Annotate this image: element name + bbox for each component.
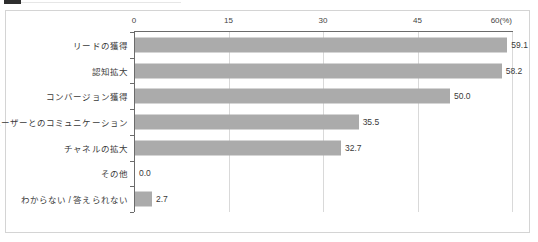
bar xyxy=(135,37,507,52)
y-axis-tick xyxy=(130,58,134,59)
bar-value-label: 50.0 xyxy=(454,91,471,101)
category-label: 認知拡大 xyxy=(92,65,128,77)
section-bullet-marker-icon xyxy=(4,0,21,4)
gridline-60 xyxy=(512,32,513,212)
bar xyxy=(135,89,450,104)
category-label: ユーザーとのコミュニケーション xyxy=(0,116,128,128)
y-axis-tick xyxy=(130,161,134,162)
bar-row: チャネルの拡大32.7 xyxy=(134,135,512,161)
bar xyxy=(135,192,152,207)
bar xyxy=(135,63,502,78)
bar-row: 認知拡大58.2 xyxy=(134,58,512,84)
bar-chart-figure: 015304560(%)リードの獲得59.1認知拡大58.2コンバージョン獲得5… xyxy=(0,0,538,242)
x-axis-tick-label: 30 xyxy=(319,16,328,25)
bar-value-label: 0.0 xyxy=(139,168,151,178)
category-label: チャネルの拡大 xyxy=(64,142,128,154)
y-axis-tick xyxy=(130,83,134,84)
category-label: その他 xyxy=(101,167,128,179)
category-label: わからない / 答えられない xyxy=(21,193,129,205)
y-axis-tick xyxy=(130,109,134,110)
bar-value-label: 32.7 xyxy=(345,143,362,153)
bar-row: リードの獲得59.1 xyxy=(134,32,512,58)
x-axis-tick-label: 0 xyxy=(132,16,136,25)
x-axis-tick-label: 45 xyxy=(413,16,422,25)
bar-value-label: 2.7 xyxy=(156,194,168,204)
bar xyxy=(135,114,359,129)
bar-value-label: 58.2 xyxy=(506,66,523,76)
bar-value-label: 59.1 xyxy=(511,40,528,50)
bar-row: その他0.0 xyxy=(134,161,512,187)
section-rule-divider xyxy=(21,2,181,3)
bar-value-label: 35.5 xyxy=(363,117,380,127)
category-label: コンバージョン獲得 xyxy=(46,90,128,102)
bar xyxy=(135,140,341,155)
y-axis-tick xyxy=(130,135,134,136)
x-axis-tick-label: 60(%) xyxy=(491,16,512,25)
y-axis-tick xyxy=(130,186,134,187)
bar-row: わからない / 答えられない2.7 xyxy=(134,186,512,212)
category-label: リードの獲得 xyxy=(73,39,128,51)
x-axis-tick-label: 15 xyxy=(224,16,233,25)
y-axis-tick xyxy=(130,212,134,213)
y-axis-tick xyxy=(130,32,134,33)
bar-row: コンバージョン獲得50.0 xyxy=(134,83,512,109)
plot-area: 015304560(%)リードの獲得59.1認知拡大58.2コンバージョン獲得5… xyxy=(134,32,512,212)
bar-row: ユーザーとのコミュニケーション35.5 xyxy=(134,109,512,135)
